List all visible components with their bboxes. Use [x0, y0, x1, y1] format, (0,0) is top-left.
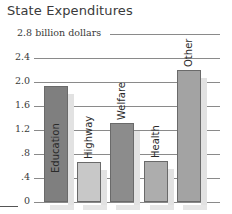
bar-other — [177, 70, 201, 202]
bar-shadow — [134, 131, 140, 210]
gridline — [110, 34, 220, 35]
bar-base-shadow — [116, 205, 140, 210]
y-tick-label: 2.0 — [15, 76, 30, 86]
y-tick-label: .8 — [21, 148, 30, 158]
bar-highway — [77, 162, 101, 202]
bar-label: Highway — [83, 116, 94, 159]
y-tick-label: 1.6 — [15, 100, 30, 110]
bar-chart: State Expenditures 0.4.81.21.62.02.42.8 … — [0, 0, 232, 214]
y-tick-label: 0 — [24, 196, 30, 206]
bar-base-shadow — [150, 205, 174, 210]
bar-welfare — [110, 123, 134, 202]
bar-health — [144, 161, 168, 202]
bar-shadow — [68, 94, 74, 210]
bar-label: Education — [50, 123, 61, 173]
y-tick-label: 2.8 billion dollars — [17, 28, 101, 38]
axis-marker — [0, 206, 18, 207]
bar-shadow — [101, 170, 107, 210]
bar-shadow — [201, 78, 207, 210]
bar-base-shadow — [50, 205, 74, 210]
y-tick-label: 2.4 — [15, 52, 30, 62]
bar-shadow — [168, 169, 174, 210]
bar-base-shadow — [83, 205, 107, 210]
bar-label: Health — [150, 125, 161, 158]
bar-label: Other — [183, 39, 194, 67]
y-tick-label: 1.2 — [15, 124, 30, 134]
bar-base-shadow — [183, 205, 207, 210]
gridline — [34, 202, 220, 203]
bar-label: Welfare — [116, 82, 127, 120]
y-tick-label: .4 — [21, 172, 30, 182]
chart-title: State Expenditures — [7, 3, 133, 18]
